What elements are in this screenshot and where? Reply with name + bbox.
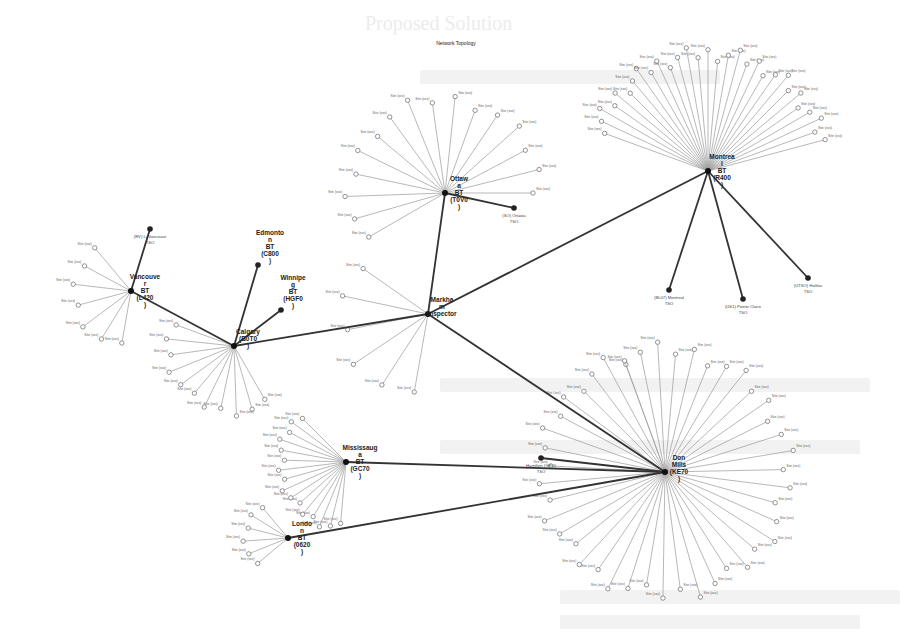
leaf-site-node[interactable] <box>713 581 717 585</box>
terminal-node[interactable] <box>538 455 544 461</box>
leaf-site-node[interactable] <box>698 595 702 599</box>
leaf-site-node[interactable] <box>282 477 286 481</box>
terminal-node[interactable] <box>278 307 284 313</box>
leaf-site-node[interactable] <box>724 364 728 368</box>
leaf-site-node[interactable] <box>638 350 642 354</box>
leaf-site-node[interactable] <box>598 106 602 110</box>
leaf-site-node[interactable] <box>601 355 605 359</box>
leaf-site-node[interactable] <box>495 113 499 117</box>
leaf-site-node[interactable] <box>169 353 173 357</box>
leaf-site-node[interactable] <box>673 352 677 356</box>
leaf-site-node[interactable] <box>540 426 544 430</box>
leaf-site-node[interactable] <box>590 372 594 376</box>
leaf-site-node[interactable] <box>192 391 196 395</box>
leaf-site-node[interactable] <box>813 130 817 134</box>
leaf-site-node[interactable] <box>71 282 75 286</box>
leaf-site-node[interactable] <box>684 46 688 50</box>
leaf-site-node[interactable] <box>602 131 606 135</box>
leaf-site-node[interactable] <box>738 48 742 52</box>
leaf-site-node[interactable] <box>246 526 250 530</box>
leaf-site-node[interactable] <box>561 395 565 399</box>
leaf-site-node[interactable] <box>531 191 535 195</box>
leaf-site-node[interactable] <box>649 70 653 74</box>
leaf-site-node[interactable] <box>613 91 617 95</box>
leaf-site-node[interactable] <box>706 48 710 52</box>
leaf-site-node[interactable] <box>796 106 800 110</box>
leaf-site-node[interactable] <box>537 167 541 171</box>
leaf-site-node[interactable] <box>338 521 342 525</box>
leaf-site-node[interactable] <box>726 53 730 57</box>
leaf-site-node[interactable] <box>473 108 477 112</box>
leaf-site-node[interactable] <box>289 420 293 424</box>
leaf-site-node[interactable] <box>278 437 282 441</box>
leaf-site-node[interactable] <box>287 430 291 434</box>
leaf-site-node[interactable] <box>99 337 103 341</box>
leaf-site-node[interactable] <box>298 501 302 505</box>
hub-node-vancouver[interactable] <box>128 288 134 294</box>
terminal-node[interactable] <box>147 226 153 232</box>
leaf-site-node[interactable] <box>773 73 777 77</box>
leaf-site-node[interactable] <box>644 583 648 587</box>
hub-node-toronto[interactable] <box>662 469 668 475</box>
leaf-site-node[interactable] <box>745 565 749 569</box>
leaf-site-node[interactable] <box>282 458 286 462</box>
leaf-site-node[interactable] <box>808 110 812 114</box>
leaf-site-node[interactable] <box>548 498 552 502</box>
leaf-site-node[interactable] <box>596 567 600 571</box>
leaf-site-node[interactable] <box>774 519 778 523</box>
leaf-site-node[interactable] <box>202 405 206 409</box>
leaf-site-node[interactable] <box>412 390 416 394</box>
leaf-site-node[interactable] <box>249 513 253 517</box>
leaf-site-node[interactable] <box>82 264 86 268</box>
leaf-site-node[interactable] <box>380 383 384 387</box>
leaf-site-node[interactable] <box>678 587 682 591</box>
leaf-site-node[interactable] <box>93 246 97 250</box>
leaf-site-node[interactable] <box>276 468 280 472</box>
leaf-site-node[interactable] <box>76 303 80 307</box>
leaf-site-node[interactable] <box>557 532 561 536</box>
leaf-site-node[interactable] <box>761 74 765 78</box>
leaf-site-node[interactable] <box>234 414 238 418</box>
leaf-site-node[interactable] <box>388 115 392 119</box>
leaf-site-node[interactable] <box>300 512 304 516</box>
leaf-site-node[interactable] <box>622 359 626 363</box>
leaf-site-node[interactable] <box>724 566 728 570</box>
leaf-site-node[interactable] <box>788 486 792 490</box>
leaf-site-node[interactable] <box>311 514 315 518</box>
leaf-site-node[interactable] <box>773 501 777 505</box>
hub-node-montreal[interactable] <box>705 168 711 174</box>
leaf-site-node[interactable] <box>692 347 696 351</box>
leaf-site-node[interactable] <box>630 79 634 83</box>
leaf-site-node[interactable] <box>179 382 183 386</box>
leaf-site-node[interactable] <box>599 119 603 123</box>
terminal-node[interactable] <box>666 287 672 293</box>
leaf-site-node[interactable] <box>767 398 771 402</box>
leaf-site-node[interactable] <box>823 137 827 141</box>
leaf-site-node[interactable] <box>453 94 457 98</box>
leaf-site-node[interactable] <box>263 397 267 401</box>
leaf-site-node[interactable] <box>356 148 360 152</box>
leaf-site-node[interactable] <box>745 62 749 66</box>
hub-node-ottawa[interactable] <box>442 190 448 196</box>
leaf-site-node[interactable] <box>786 73 790 77</box>
leaf-site-node[interactable] <box>675 55 679 59</box>
leaf-site-node[interactable] <box>280 489 284 493</box>
leaf-site-node[interactable] <box>628 91 632 95</box>
leaf-site-node[interactable] <box>241 539 245 543</box>
leaf-site-node[interactable] <box>655 340 659 344</box>
leaf-site-node[interactable] <box>744 368 748 372</box>
leaf-site-node[interactable] <box>779 432 783 436</box>
leaf-site-node[interactable] <box>317 525 321 529</box>
terminal-node[interactable] <box>740 296 746 302</box>
terminal-node[interactable] <box>255 262 261 268</box>
leaf-site-node[interactable] <box>120 341 124 345</box>
leaf-site-node[interactable] <box>219 406 223 410</box>
hub-node-london[interactable] <box>285 535 291 541</box>
leaf-site-node[interactable] <box>715 59 719 63</box>
leaf-site-node[interactable] <box>340 294 344 298</box>
leaf-site-node[interactable] <box>773 539 777 543</box>
leaf-site-node[interactable] <box>752 547 756 551</box>
leaf-site-node[interactable] <box>537 482 541 486</box>
leaf-site-node[interactable] <box>255 561 259 565</box>
leaf-site-node[interactable] <box>786 88 790 92</box>
